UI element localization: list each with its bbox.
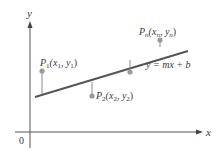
p2-label: P2(x2, y2) — [95, 90, 133, 103]
data-point-p3 — [127, 69, 132, 74]
x-axis-arrow-icon — [196, 130, 203, 135]
x-axis: x — [15, 126, 211, 138]
p1-label: P1(x1, y1) — [39, 57, 77, 70]
pn-label: Pn(xn, yn) — [138, 26, 176, 39]
regression-diagram: y x 0 y = mx + b P1(x1, y1) P2(x2, y2) P… — [0, 0, 220, 156]
y-axis-label: y — [26, 7, 32, 19]
x-axis-label: x — [205, 126, 211, 138]
data-point-p2 — [89, 93, 94, 98]
line-equation-label: y = mx + b — [145, 59, 191, 70]
diagram-svg: y x 0 y = mx + b P1(x1, y1) P2(x2, y2) P… — [0, 0, 220, 156]
y-axis: y — [26, 7, 33, 148]
data-point-p1 — [39, 68, 44, 73]
origin-label: 0 — [19, 135, 24, 146]
y-axis-arrow-icon — [28, 21, 33, 28]
